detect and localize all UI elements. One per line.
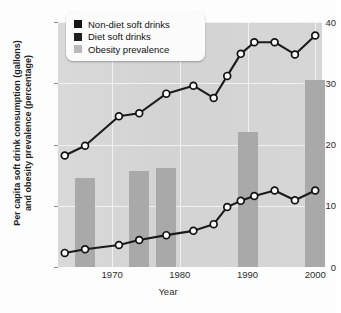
data-point-marker xyxy=(210,221,217,228)
x-tick-label-1990: 1990 xyxy=(218,270,278,280)
data-point-marker xyxy=(292,197,299,204)
data-point-marker xyxy=(312,32,319,39)
data-point-marker xyxy=(82,142,89,149)
data-point-marker xyxy=(271,187,278,194)
data-point-marker xyxy=(163,232,170,239)
data-point-marker xyxy=(312,187,319,194)
legend-swatch-icon-non-diet xyxy=(74,20,82,28)
data-point-marker xyxy=(251,193,258,200)
data-point-marker xyxy=(292,51,299,58)
data-point-marker xyxy=(136,237,143,244)
data-point-marker xyxy=(210,95,217,102)
data-point-marker xyxy=(224,204,231,211)
data-point-marker xyxy=(224,73,231,80)
legend-item-obesity-prevalence: Obesity prevalence xyxy=(74,44,198,55)
y-axis-title-line2: and obesity prevalence (percentage) xyxy=(23,18,34,248)
chart-legend: Non-diet soft drinks Diet soft drinks Ob… xyxy=(66,12,205,61)
line-diet-soft-drinks xyxy=(65,190,315,252)
data-point-marker xyxy=(237,50,244,57)
x-tick-label-2000: 2000 xyxy=(285,270,341,280)
data-point-marker xyxy=(116,242,123,249)
legend-item-non-diet-soft-drinks: Non-diet soft drinks xyxy=(74,19,198,30)
x-axis-title: Year xyxy=(0,286,336,297)
y-axis-title-line1: Per capita soft drink consumption (gallo… xyxy=(12,18,23,248)
data-point-marker xyxy=(116,113,123,120)
data-point-marker xyxy=(251,39,258,46)
data-point-marker xyxy=(163,90,170,97)
data-point-marker xyxy=(190,82,197,89)
legend-swatch-icon-diet xyxy=(74,33,82,41)
data-point-marker xyxy=(61,250,68,257)
y-axis-title: Per capita soft drink consumption (gallo… xyxy=(12,18,34,248)
data-point-marker xyxy=(82,246,89,253)
data-point-marker xyxy=(136,110,143,117)
x-tick-label-1980: 1980 xyxy=(150,270,210,280)
legend-item-diet-soft-drinks: Diet soft drinks xyxy=(74,31,198,42)
data-point-marker xyxy=(61,152,68,159)
legend-label-non-diet: Non-diet soft drinks xyxy=(88,19,170,30)
data-point-marker xyxy=(271,39,278,46)
legend-swatch-icon-obesity xyxy=(74,45,82,53)
data-point-marker xyxy=(237,197,244,204)
data-point-marker xyxy=(190,227,197,234)
legend-label-diet: Diet soft drinks xyxy=(88,31,151,42)
x-tick-label-1970: 1970 xyxy=(82,270,142,280)
markers-diet-soft-drinks xyxy=(61,187,318,256)
legend-label-obesity: Obesity prevalence xyxy=(88,44,169,55)
y-tick-mark-0 xyxy=(54,267,58,268)
